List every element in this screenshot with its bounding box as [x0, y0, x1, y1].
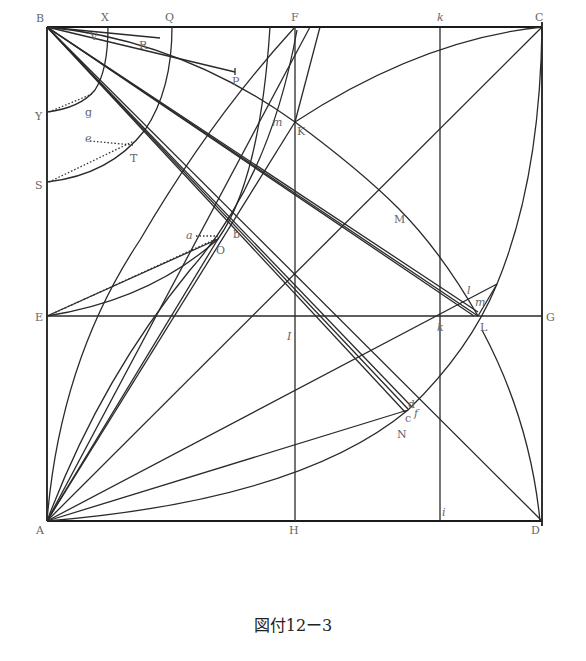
label-E: E [35, 311, 43, 324]
arc-A-m [47, 30, 297, 521]
label-L: L [480, 321, 488, 334]
label-b: b [233, 228, 240, 241]
label-P: P [232, 75, 240, 88]
figure-caption: 図付12ー3 [0, 612, 586, 636]
bundle-B-to-L [47, 27, 478, 316]
label-A: A [35, 524, 45, 537]
label-c: c [405, 412, 411, 425]
label-X: X [101, 11, 109, 24]
arc-L-D [482, 330, 540, 521]
line-A-top [47, 27, 310, 521]
label-k-mid: k [437, 321, 444, 334]
arc-E-O [47, 27, 270, 316]
line-K-top [295, 27, 320, 122]
line-A-K-ext [47, 122, 295, 521]
label-a: a [186, 229, 193, 242]
label-e: e [85, 132, 92, 145]
label-V: V [89, 30, 99, 43]
geometric-construction-diagram: B X Q F k C V R P Y g e T S m K M a b O … [0, 0, 586, 661]
label-g: g [85, 106, 92, 119]
label-H: H [289, 524, 299, 537]
dotted-S-T [49, 141, 134, 182]
label-k-top: k [437, 11, 444, 24]
label-C: C [535, 11, 543, 24]
label-N: N [397, 428, 407, 441]
label-D: D [531, 524, 540, 537]
label-R: R [139, 39, 148, 52]
arc-K-C [295, 27, 542, 122]
label-M: M [394, 213, 405, 226]
label-f: f [413, 407, 420, 420]
label-m-upper: m [272, 116, 282, 129]
label-G: G [546, 311, 555, 324]
label-i: i [442, 506, 446, 519]
label-m-lower: m [475, 296, 485, 309]
label-K: K [297, 125, 306, 138]
label-B: B [36, 12, 44, 25]
label-F: F [291, 11, 299, 24]
label-l: l [467, 284, 471, 297]
label-I: I [286, 330, 292, 343]
label-Y: Y [34, 110, 43, 123]
label-O: O [216, 244, 225, 257]
line-A-m [47, 284, 497, 521]
label-S: S [35, 179, 43, 192]
dotted-e-T [90, 141, 133, 145]
label-T: T [130, 152, 138, 165]
label-Q: Q [165, 11, 174, 24]
